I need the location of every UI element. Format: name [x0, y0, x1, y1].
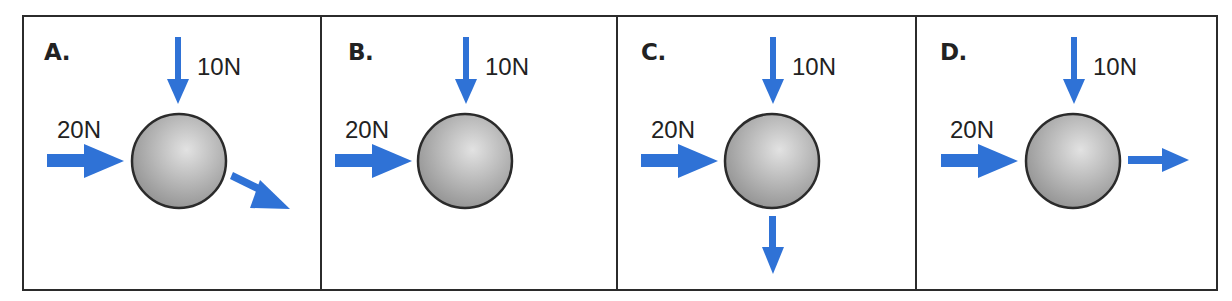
ball: [725, 114, 819, 208]
right-arrow-icon: [1128, 148, 1189, 172]
panel-letter: A.: [44, 39, 70, 65]
top-force-label: 10N: [792, 53, 836, 81]
right-arrow-icon: [47, 144, 124, 178]
right-arrow-icon: [641, 144, 718, 178]
ball: [132, 114, 226, 208]
left-force-label: 20N: [345, 116, 389, 144]
down-arrow-icon: [762, 37, 784, 104]
diagonal-arrow-icon: [230, 172, 290, 209]
panel-d: D. 10N 20N: [917, 17, 1216, 289]
down-arrow-icon: [167, 37, 189, 104]
right-arrow-icon: [335, 144, 412, 178]
down-arrow-icon: [762, 216, 784, 274]
panel-b: B. 10N 20N: [322, 17, 618, 289]
top-force-label: 10N: [1093, 53, 1137, 81]
ball: [418, 114, 512, 208]
panel-c: C. 10N 20N: [618, 17, 915, 289]
ball: [1026, 114, 1120, 208]
left-force-label: 20N: [651, 116, 695, 144]
panel-letter: B.: [348, 39, 373, 65]
down-arrow-icon: [1063, 37, 1085, 104]
right-arrow-icon: [941, 144, 1018, 178]
panel-letter: C.: [641, 39, 666, 65]
left-force-label: 20N: [950, 116, 994, 144]
top-force-label: 10N: [485, 53, 529, 81]
panel-a: A. 10N 20N: [24, 17, 322, 289]
diagram-frame: A. 10N 20N B. 10N 20N: [22, 15, 1218, 291]
top-force-label: 10N: [197, 53, 241, 81]
left-force-label: 20N: [57, 116, 101, 144]
panel-letter: D.: [940, 39, 967, 65]
down-arrow-icon: [455, 37, 477, 104]
